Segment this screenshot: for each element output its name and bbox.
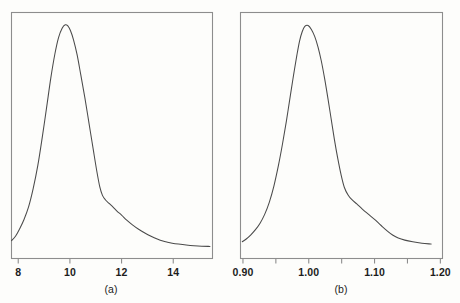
panel-a-caption: (a) bbox=[105, 283, 118, 295]
panel-b-plot bbox=[228, 0, 460, 303]
panel-a-tick-label: 10 bbox=[64, 266, 76, 278]
panel-a-tick-label: 12 bbox=[116, 266, 128, 278]
panel-b-tick-label: 0.90 bbox=[233, 266, 254, 278]
panel-b-caption: (b) bbox=[335, 283, 348, 295]
panel-b-tick-label: 1.10 bbox=[364, 266, 385, 278]
figure-container: 8 10 12 14 0.90 1.00 1.10 1.20 (a) (b) bbox=[0, 0, 460, 303]
panel-a: 8 10 12 14 bbox=[0, 0, 228, 303]
panel-a-tick-label: 14 bbox=[167, 266, 179, 278]
panel-b-tick-label: 1.00 bbox=[298, 266, 319, 278]
panel-a-plot bbox=[0, 0, 228, 303]
panel-b-tick-label: 1.20 bbox=[430, 266, 451, 278]
panel-b: 0.90 1.00 1.10 1.20 bbox=[228, 0, 460, 303]
panel-a-tick-label: 8 bbox=[15, 266, 21, 278]
